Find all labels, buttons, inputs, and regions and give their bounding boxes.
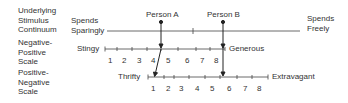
tick-label: 3 <box>137 56 142 65</box>
tick-label: 8 <box>257 84 262 93</box>
arrowhead-icon <box>159 44 163 48</box>
negative-positive-scale-line <box>105 47 225 52</box>
tick-label: 1 <box>108 56 113 65</box>
tick-label: 7 <box>200 56 205 65</box>
tick-label: 7 <box>243 84 248 93</box>
tick-label: 5 <box>210 84 215 93</box>
continuum-line <box>107 28 300 34</box>
arrowhead-icon <box>154 72 158 77</box>
tick-label: 5 <box>166 56 171 65</box>
negative-positive-tick-labels: 1 2 3 4 5 6 7 8 <box>108 56 219 65</box>
positive-negative-scale-line <box>148 75 268 80</box>
tick-label: 4 <box>195 84 200 93</box>
tick-label: 8 <box>214 56 219 65</box>
person-a-projection <box>154 20 164 76</box>
tick-label: 3 <box>179 84 184 93</box>
tick-label: 6 <box>185 56 190 65</box>
tick-label: 6 <box>227 84 232 93</box>
scales-diagram: 1 2 3 4 5 6 7 8 1 2 3 4 5 6 7 8 <box>0 0 348 103</box>
positive-negative-tick-labels: 1 2 3 4 5 6 7 8 <box>151 84 262 93</box>
person-b-projection <box>221 20 225 76</box>
tick-label: 4 <box>151 56 156 65</box>
tick-label: 1 <box>151 84 156 93</box>
tick-label: 2 <box>166 84 171 93</box>
arrowhead-icon <box>221 44 225 48</box>
arrowhead-icon <box>221 72 225 76</box>
tick-label: 2 <box>122 56 127 65</box>
